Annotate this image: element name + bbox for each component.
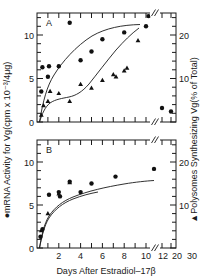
panel-a-right-ytick-10: 10 — [179, 74, 189, 84]
panel-b-ytick-0: 0 — [29, 244, 34, 254]
xtick-10: 10 — [141, 251, 151, 261]
panel-b-bottom-axis-break — [150, 245, 160, 252]
panel-b-right-ytick-10: 10 — [179, 201, 189, 211]
figure-root: A 0 5 10 — [0, 0, 204, 280]
panel-a-right-ytick-20: 20 — [179, 31, 189, 41]
panel-a-top-axis-break — [150, 10, 160, 17]
panel-a-ytick-0: 0 — [29, 118, 34, 128]
y-axis-left-title: ●mRNA Activity for Vg(cpm x 10⁻³/4μg) — [2, 62, 12, 219]
figure-svg: A 0 5 10 — [0, 0, 204, 280]
panel-a-ytick-5: 5 — [29, 74, 34, 84]
panel-a-bottom-axis-break — [150, 119, 160, 126]
y-axis-right-title: ▲Polysomes Synthesizing Vg(% of Total) — [189, 57, 199, 222]
x-axis-title: Days After Estradiol–17β — [56, 266, 155, 276]
panel-b-letter: B — [46, 145, 52, 155]
xtick-8: 8 — [122, 251, 127, 261]
xtick-2: 2 — [56, 251, 61, 261]
panel-b-top-axis-break — [150, 137, 160, 144]
xtick-30: 30 — [187, 251, 197, 261]
panel-b-ytick-10: 10 — [24, 158, 34, 168]
xtick-12: 12 — [158, 251, 168, 261]
xtick-4: 4 — [78, 251, 83, 261]
panel-b-right-ytick-20: 20 — [179, 158, 189, 168]
panel-a-ytick-10: 10 — [24, 31, 34, 41]
panel-b-ytick-5: 5 — [29, 201, 34, 211]
xtick-6: 6 — [100, 251, 105, 261]
xtick-20: 20 — [172, 251, 182, 261]
panel-a-letter: A — [46, 18, 52, 28]
